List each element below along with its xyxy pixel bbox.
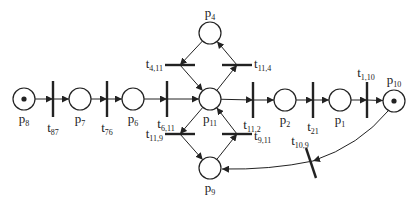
label-p11: p11 [203,111,217,128]
label-t21: t21 [307,119,319,136]
arc-p11-t114 [217,65,237,90]
token-icon [391,98,396,103]
arc-t110-p10 [367,100,383,101]
place-p6 [122,88,144,110]
label-t114: t11,4 [254,56,271,73]
arc-t109-p9 [222,161,313,169]
label-t110: t1,10 [357,65,375,82]
label-t76: t76 [101,120,113,137]
label-p7: p7 [75,111,86,128]
arc-t119-p9 [180,134,203,160]
place-p4 [199,22,221,44]
label-p8: p8 [19,111,30,128]
arc-p4-t411 [180,41,202,65]
arc-t411-p11 [180,65,203,91]
place-p2 [274,89,296,111]
arc-p10-t109 [313,111,388,161]
label-p6: p6 [128,111,139,128]
label-p2: p2 [280,112,291,129]
token-icon [21,96,26,101]
label-t112: t11,2 [243,117,260,134]
arc-p11-t112 [221,99,253,100]
petri-net-diagram: p8p7p6p4p11p9p2p1p10t87t76t6,11t4,11t11,… [0,0,419,200]
label-t411: t4,11 [146,56,163,73]
place-p11 [199,88,221,110]
arc-t114-p4 [217,41,237,65]
label-t87: t87 [47,120,59,137]
arc-t911-p11 [217,108,237,134]
place-p7 [69,88,91,110]
transition-t109 [306,148,316,178]
place-p9 [199,157,221,179]
label-p10: p10 [387,72,402,89]
place-p1 [329,89,351,111]
label-t611: t6,11 [157,116,174,133]
label-p9: p9 [205,180,216,197]
places-layer [13,22,405,179]
label-p1: p1 [335,112,346,129]
label-t109: t10,9 [291,133,309,150]
arc-p9-t911 [217,134,237,159]
label-p4: p4 [205,5,216,22]
arc-p11-t119 [180,107,203,134]
